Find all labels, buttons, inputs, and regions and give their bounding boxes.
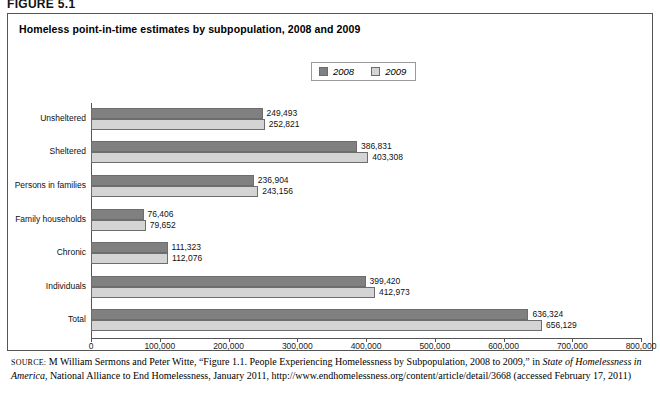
- bar-2009-individuals: [91, 287, 375, 298]
- bar-2008-persons-in-families: [91, 175, 254, 186]
- source-note: SOURCE: M William Sermons and Peter Witt…: [11, 355, 653, 383]
- category-axis-labels: UnshelteredShelteredPersons in familiesF…: [0, 103, 86, 338]
- legend-swatch-2009: [371, 67, 380, 76]
- category-label: Sheltered: [50, 146, 86, 156]
- x-axis-tick-label: 800,000: [626, 341, 657, 351]
- x-axis-tick-label: 600,000: [488, 341, 519, 351]
- bar-value-label: 243,156: [262, 186, 293, 197]
- category-label: Total: [68, 314, 86, 324]
- category-label: Individuals: [46, 281, 86, 291]
- source-text-1: M William Sermons and Peter Witte, “Figu…: [46, 356, 542, 367]
- bar-2009-total: [91, 320, 542, 331]
- bar-value-label: 403,308: [372, 152, 403, 163]
- bar-2009-family-households: [91, 220, 146, 231]
- figure-label: FIGURE 5.1: [7, 0, 75, 11]
- category-label: Persons in families: [15, 180, 86, 190]
- bar-2008-individuals: [91, 276, 366, 287]
- legend-swatch-2008: [319, 67, 328, 76]
- bar-2008-family-households: [91, 209, 144, 220]
- source-prefix: SOURCE:: [11, 358, 46, 367]
- legend-label-2009: 2009: [385, 66, 406, 77]
- bar-2008-chronic: [91, 242, 168, 253]
- bar-value-label: 249,493: [267, 108, 298, 119]
- bar-value-label: 252,821: [269, 119, 300, 130]
- chart-legend: 20082009: [311, 62, 416, 81]
- bar-value-label: 236,904: [258, 175, 289, 186]
- bar-2008-total: [91, 309, 528, 320]
- x-axis-tick-label: 500,000: [419, 341, 450, 351]
- legend-item-2009: 2009: [371, 66, 406, 77]
- category-label: Chronic: [57, 247, 86, 257]
- bar-value-label: 76,406: [148, 209, 174, 220]
- bar-2009-chronic: [91, 253, 168, 264]
- category-label: Family households: [15, 214, 86, 224]
- bar-2009-persons-in-families: [91, 186, 258, 197]
- bar-2009-unsheltered: [91, 119, 265, 130]
- bar-value-label: 111,323: [172, 242, 201, 253]
- category-label: Unsheltered: [40, 113, 86, 123]
- bar-value-label: 399,420: [370, 276, 401, 287]
- bar-value-label: 656,129: [546, 320, 577, 331]
- bar-2008-sheltered: [91, 141, 357, 152]
- bar-value-label: 412,973: [379, 287, 410, 298]
- x-axis-tick-label: 400,000: [351, 341, 382, 351]
- legend-item-2008: 2008: [319, 66, 354, 77]
- bar-value-label: 636,324: [532, 309, 563, 320]
- x-axis-tick-label: 200,000: [213, 341, 244, 351]
- bar-value-label: 112,076: [172, 253, 202, 264]
- x-axis-tick-label: 300,000: [282, 341, 313, 351]
- source-text-2: , National Alliance to End Homelessness,…: [45, 370, 631, 381]
- bar-2008-unsheltered: [91, 108, 263, 119]
- x-axis-tick-label: 0: [89, 341, 94, 351]
- figure-container: FIGURE 5.1 Homeless point-in-time estima…: [0, 0, 660, 411]
- bar-value-label: 386,831: [361, 141, 392, 152]
- x-axis-tick-label: 100,000: [144, 341, 175, 351]
- chart-title: Homeless point-in-time estimates by subp…: [19, 23, 360, 35]
- plot-area: 249,493252,821386,831403,308236,904243,1…: [91, 103, 641, 338]
- x-axis-tick-label: 700,000: [557, 341, 588, 351]
- bar-value-label: 79,652: [150, 220, 176, 231]
- bar-2009-sheltered: [91, 152, 368, 163]
- legend-label-2008: 2008: [333, 66, 354, 77]
